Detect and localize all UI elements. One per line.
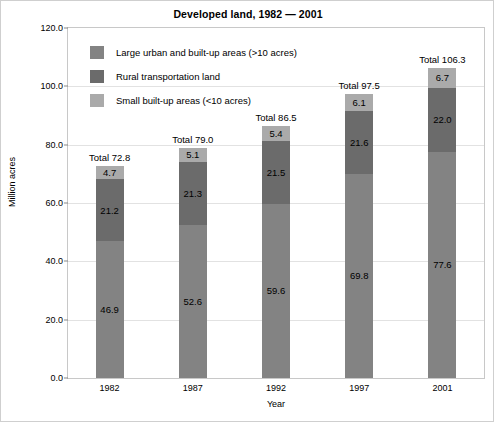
legend-label: Small built-up areas (<10 acres)	[116, 95, 251, 106]
bar-segment[interactable]: 6.1	[345, 94, 373, 112]
x-axis-label: Year	[67, 399, 485, 409]
y-axis-tick-mark	[64, 28, 68, 29]
y-axis-tick-mark	[64, 261, 68, 262]
y-axis-tick-mark	[64, 378, 68, 379]
chart-page: Developed land, 1982 — 2001 Million acre…	[0, 0, 494, 422]
page-title: Developed land, 1982 — 2001	[1, 8, 494, 20]
legend-item[interactable]: Rural transportation land	[90, 70, 297, 83]
bar-segment[interactable]: 5.1	[179, 148, 207, 163]
bar-segment[interactable]: 21.5	[262, 141, 290, 204]
legend-label: Large urban and built-up areas (>10 acre…	[116, 47, 297, 58]
bar-stack[interactable]: 52.621.35.1Total 79.0	[179, 148, 207, 378]
bar-segment[interactable]: 6.7	[428, 68, 456, 88]
bar-segment[interactable]: 52.6	[179, 225, 207, 378]
x-axis-tick-label: 1997	[349, 383, 369, 393]
bar-segment[interactable]: 77.6	[428, 152, 456, 378]
bar-segment[interactable]: 4.7	[96, 166, 124, 180]
bar-stack[interactable]: 69.821.66.1Total 97.5	[345, 94, 373, 378]
x-axis-tick-label: 1982	[100, 383, 120, 393]
bar-stack[interactable]: 59.621.55.4Total 86.5	[262, 126, 290, 378]
legend-swatch-icon	[90, 70, 104, 83]
bar-total-label: Total 86.5	[255, 112, 296, 123]
legend-item[interactable]: Small built-up areas (<10 acres)	[90, 94, 297, 107]
legend-swatch-icon	[90, 46, 104, 59]
plot-area: Large urban and built-up areas (>10 acre…	[67, 27, 485, 379]
bar-total-label: Total 79.0	[172, 134, 213, 145]
legend-label: Rural transportation land	[116, 71, 220, 82]
bar-segment[interactable]: 21.3	[179, 162, 207, 224]
bar-segment[interactable]: 22.0	[428, 88, 456, 152]
bar-segment[interactable]: 69.8	[345, 174, 373, 378]
bar-segment[interactable]: 46.9	[96, 241, 124, 378]
bar-segment[interactable]: 21.2	[96, 179, 124, 241]
legend-swatch-icon	[90, 94, 104, 107]
bar-total-label: Total 97.5	[339, 80, 380, 91]
x-axis-tick-label: 2001	[432, 383, 452, 393]
bar-segment[interactable]: 59.6	[262, 204, 290, 378]
legend-item[interactable]: Large urban and built-up areas (>10 acre…	[90, 46, 297, 59]
x-axis-tick-label: 1992	[266, 383, 286, 393]
y-axis-tick-mark	[64, 319, 68, 320]
bar-stack[interactable]: 77.622.06.7Total 106.3	[428, 68, 456, 378]
y-axis-tick-mark	[64, 203, 68, 204]
bar-segment[interactable]: 21.6	[345, 111, 373, 174]
y-axis-tick-mark	[64, 86, 68, 87]
bar-stack[interactable]: 46.921.24.7Total 72.8	[96, 166, 124, 378]
x-axis-tick-label: 1987	[183, 383, 203, 393]
y-axis-tick-mark	[64, 144, 68, 145]
bar-segment[interactable]: 5.4	[262, 126, 290, 142]
bar-total-label: Total 106.3	[419, 54, 465, 65]
y-axis-label: Million acres	[5, 1, 19, 363]
y-axis-label-text: Million acres	[7, 157, 17, 207]
bar-total-label: Total 72.8	[89, 152, 130, 163]
chart-legend: Large urban and built-up areas (>10 acre…	[90, 46, 297, 107]
